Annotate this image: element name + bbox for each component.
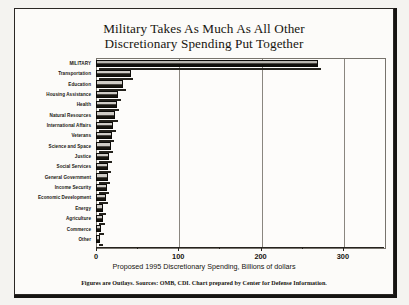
bar-commerce [96, 225, 101, 232]
bar-transportation [96, 70, 131, 77]
bar-other [96, 235, 100, 242]
bar-row [96, 214, 384, 224]
bar-housing-assistance [96, 91, 118, 98]
bar-row [96, 100, 384, 110]
bar-international-affairs [96, 122, 113, 129]
bar-agriculture [96, 215, 103, 222]
category-label: Veterans [15, 131, 94, 141]
bar-highlight [97, 81, 122, 84]
bar-row [96, 69, 384, 79]
category-label: Justice [15, 152, 94, 162]
chart-canvas: Military Takes As Much As All Other Disc… [15, 9, 393, 294]
category-label: Housing Assistance [15, 90, 94, 100]
bar-row [96, 183, 384, 193]
category-label: Agriculture [15, 214, 94, 224]
bar-education [96, 80, 123, 87]
bar-highlight [97, 174, 107, 177]
category-label: Natural Resources [15, 111, 94, 121]
bar-row [96, 142, 384, 152]
bar-highlight [97, 61, 317, 64]
category-label: Health [15, 100, 94, 110]
chart-page: Military Takes As Much As All Other Disc… [0, 0, 409, 305]
bar-veterans [96, 132, 112, 139]
x-minor-tick [219, 247, 220, 249]
bar-row [96, 204, 384, 214]
x-tick-100 [178, 247, 179, 251]
category-label: Economic Development [15, 193, 94, 203]
category-label: International Affairs [15, 121, 94, 131]
category-label: Science and Space [15, 142, 94, 152]
x-tick-300 [343, 247, 344, 251]
bar-row [96, 80, 384, 90]
bar-energy [96, 204, 103, 211]
bar-highlight [97, 195, 105, 198]
bar-series [96, 59, 384, 246]
bar-highlight [97, 236, 99, 239]
bar-row [96, 111, 384, 121]
x-tick-200 [261, 247, 262, 251]
bar-highlight [97, 185, 106, 188]
bar-economic-development [96, 194, 106, 201]
x-minor-tick [302, 247, 303, 249]
bar-income-security [96, 184, 107, 191]
bar-row [96, 235, 384, 245]
x-minor-tick [137, 247, 138, 249]
category-axis-labels: MILITARYTransportationEducationHousing A… [15, 59, 94, 245]
bar-row [96, 162, 384, 172]
x-tick-label: 300 [337, 252, 349, 261]
chart-title-line-1: Military Takes As Much As All Other [15, 21, 393, 36]
bar-highlight [97, 216, 102, 219]
bar-row [96, 193, 384, 203]
bar-justice [96, 153, 109, 160]
bar-row [96, 121, 384, 131]
bar-highlight [97, 123, 112, 126]
x-tick-label: 0 [94, 252, 98, 261]
x-tick-label: 100 [172, 252, 184, 261]
category-label: Social Services [15, 162, 94, 172]
category-label: Commerce [15, 225, 94, 235]
bar-science-and-space [96, 142, 111, 149]
bar-highlight [97, 205, 102, 208]
bar-health [96, 101, 117, 108]
bar-highlight [97, 154, 108, 157]
bar-military [96, 60, 318, 67]
bar-highlight [97, 226, 100, 229]
bar-highlight [97, 102, 116, 105]
category-label: MILITARY [15, 59, 94, 69]
chart-outer-frame: Military Takes As Much As All Other Disc… [14, 8, 394, 295]
category-label: Education [15, 80, 94, 90]
bar-row [96, 90, 384, 100]
bar-highlight [97, 164, 107, 167]
category-label: Energy [15, 204, 94, 214]
x-axis-title: Proposed 1995 Discretionary Spending, Bi… [15, 262, 393, 271]
bar-general-government [96, 173, 108, 180]
bar-highlight [97, 112, 114, 115]
x-tick-0 [96, 247, 97, 251]
bar-highlight [97, 143, 110, 146]
bar-natural-resources [96, 111, 115, 118]
bar-row [96, 173, 384, 183]
bar-social-services [96, 163, 108, 170]
chart-title-line-2: Discretionary Spending Put Together [15, 36, 393, 51]
bar-row [96, 225, 384, 235]
chart-title: Military Takes As Much As All Other Disc… [15, 21, 393, 51]
x-axis: 0100200300 [96, 247, 384, 248]
x-tick-label: 200 [254, 252, 266, 261]
category-label: General Government [15, 173, 94, 183]
bar-shadow [99, 244, 103, 246]
bar-highlight [97, 92, 117, 95]
category-label: Other [15, 235, 94, 245]
bar-row [96, 131, 384, 141]
bar-row [96, 152, 384, 162]
chart-footnote: Figures are Outlays. Sources: OMB, CDI. … [15, 280, 393, 286]
category-label: Income Security [15, 183, 94, 193]
category-label: Transportation [15, 69, 94, 79]
bar-highlight [97, 133, 111, 136]
bar-row [96, 59, 384, 69]
bar-highlight [97, 71, 130, 74]
